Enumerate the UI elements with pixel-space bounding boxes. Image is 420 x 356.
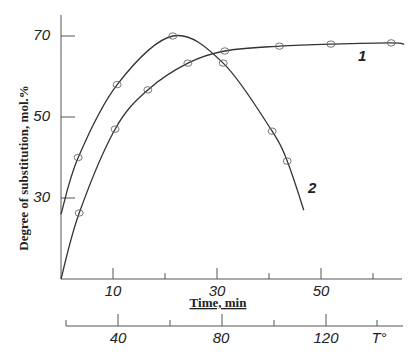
curve-2 [61,35,304,214]
curve-1-label: 1 [358,47,366,64]
t-tick-label-40: 40 [110,329,127,346]
curve-1 [61,43,404,279]
x-tick-label-10: 10 [105,282,122,299]
plot-area: 70 50 30 10 30 50 Time, min 40 80 120 T°… [0,0,420,356]
t-tick-label-120: 120 [313,329,339,346]
t-tick-label-80: 80 [213,329,230,346]
y-tick-label-30: 30 [33,188,50,205]
x-tick-label-50: 50 [313,282,330,299]
curve-2-label: 2 [307,179,317,196]
t-unit-label: T° [371,329,386,346]
data-markers [74,33,395,216]
y-tick-label-50: 50 [33,107,50,124]
y-tick-label-70: 70 [33,26,50,43]
chart: 70 50 30 10 30 50 Time, min 40 80 120 T°… [0,0,420,356]
x-axis-title: Time, min [190,295,248,310]
y-axis-title: Degree of substitution, mol.% [16,85,31,251]
